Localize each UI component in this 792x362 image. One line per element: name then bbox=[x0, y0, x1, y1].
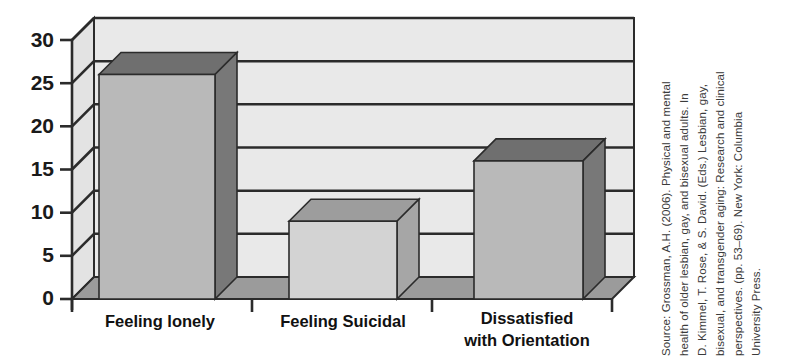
x-tick-label-feeling-suicidal: Feeling Suicidal bbox=[280, 312, 406, 330]
y-tick-label-5: 5 bbox=[42, 243, 54, 266]
chart-plot-area: 30 25 20 15 10 5 0 bbox=[0, 0, 645, 362]
bar-feeling-lonely[interactable] bbox=[99, 53, 237, 300]
source-citation-line-5: perspectives. (pp. 53–69). New York: Col… bbox=[732, 112, 744, 356]
y-tick-label-20: 20 bbox=[31, 114, 54, 137]
bar-front-face bbox=[474, 161, 583, 299]
x-tick-label-feeling-lonely: Feeling lonely bbox=[105, 312, 216, 330]
chart-svg: 30 25 20 15 10 5 0 bbox=[0, 0, 645, 362]
y-tick-labels: 30 25 20 15 10 5 0 bbox=[31, 28, 55, 309]
y-tick-label-30: 30 bbox=[31, 28, 54, 51]
source-citation-line-3: D. Kimmel, T. Rose, & S. David. (Eds.) L… bbox=[696, 84, 708, 356]
source-citation-line-2: health of older lesbian, gay, and bisexu… bbox=[678, 93, 690, 356]
y-tick-label-10: 10 bbox=[31, 200, 54, 223]
x-tick-labels: Feeling lonely Feeling Suicidal Dissatis… bbox=[105, 309, 590, 349]
source-citation: Source: Grossman, A.H. (2006). Physical … bbox=[646, 0, 792, 362]
bar-front-face bbox=[289, 221, 397, 299]
source-citation-line-1: Source: Grossman, A.H. (2006). Physical … bbox=[660, 81, 672, 356]
bar-dissatisfied-with-orientation[interactable] bbox=[474, 139, 605, 299]
bar-side-face bbox=[215, 53, 237, 300]
x-tick-label-dissatisfied-line1: Dissatisfied bbox=[481, 309, 574, 327]
bar-top-face bbox=[99, 53, 237, 75]
source-citation-line-4: bisexual, and transgender aging: Researc… bbox=[714, 71, 726, 356]
bar-side-face bbox=[583, 139, 605, 299]
y-axis bbox=[60, 40, 72, 310]
figure-3d-bar-chart: 30 25 20 15 10 5 0 bbox=[0, 0, 792, 362]
source-citation-line-6: University Press. bbox=[750, 268, 762, 356]
bar-feeling-suicidal[interactable] bbox=[289, 199, 419, 299]
y-tick-label-25: 25 bbox=[31, 71, 55, 94]
x-tick-label-dissatisfied-line2: with Orientation bbox=[463, 331, 590, 349]
y-tick-label-15: 15 bbox=[31, 157, 55, 180]
bar-front-face bbox=[99, 75, 215, 300]
y-tick-label-0: 0 bbox=[42, 286, 54, 309]
